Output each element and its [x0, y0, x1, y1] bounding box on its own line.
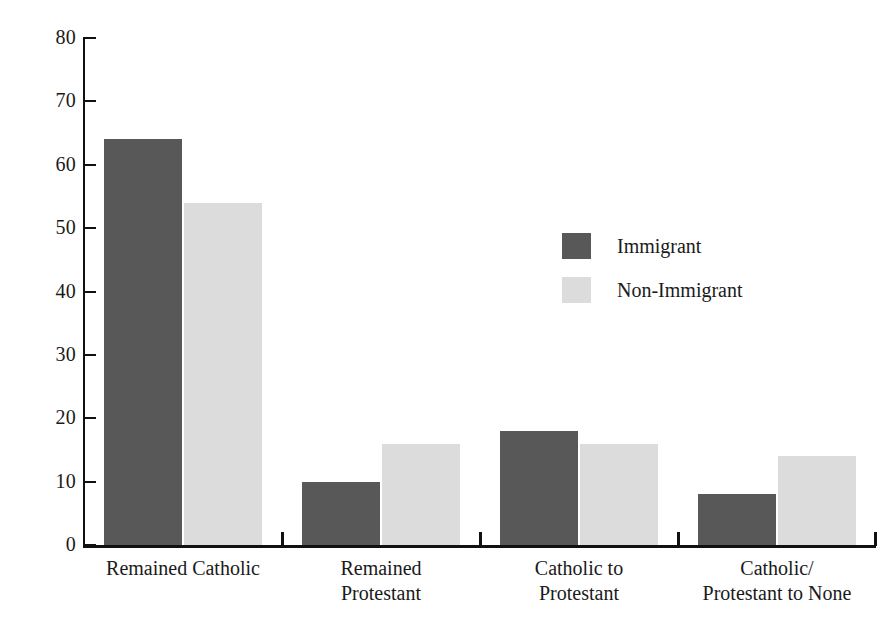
y-axis-tick-label-wrap: 50	[28, 217, 76, 237]
y-axis-tick-label-wrap: 80	[28, 27, 76, 47]
y-axis-tick-label-wrap: 10	[28, 471, 76, 491]
plot-bars	[84, 38, 876, 545]
y-axis-tick-label: 40	[32, 281, 76, 301]
bar	[698, 494, 776, 545]
legend-label-immigrant: Immigrant	[617, 236, 701, 256]
bar	[104, 139, 182, 545]
bar	[500, 431, 578, 545]
y-axis-tick-label-wrap: 30	[28, 344, 76, 364]
legend-swatch-icon-non-immigrant	[562, 277, 591, 303]
y-axis-tick-label-wrap: 70	[28, 90, 76, 110]
y-axis-tick-label: 20	[32, 407, 76, 427]
y-axis-tick-label: 80	[32, 27, 76, 47]
x-axis-category-label: Catholic/ Protestant to None	[678, 556, 876, 606]
y-axis-tick-label-wrap: 20	[28, 407, 76, 427]
bar-chart: 01020304050607080 Remained CatholicRemai…	[0, 0, 892, 632]
y-axis-tick-label-wrap: 40	[28, 281, 76, 301]
y-axis-tick-label: 0	[32, 534, 76, 554]
x-axis-category-label: Remained Catholic	[84, 556, 282, 581]
legend-label-non-immigrant: Non-Immigrant	[617, 280, 743, 300]
bar	[382, 444, 460, 545]
legend-item-non-immigrant: Non-Immigrant	[562, 268, 743, 312]
x-axis-category-label: Catholic to Protestant	[480, 556, 678, 606]
legend-item-immigrant: Immigrant	[562, 224, 743, 268]
chart-legend: Immigrant Non-Immigrant	[562, 224, 743, 312]
y-axis-tick-label-wrap: 60	[28, 154, 76, 174]
bar	[778, 456, 856, 545]
bar	[302, 482, 380, 545]
y-axis-tick-label: 60	[32, 154, 76, 174]
y-axis-tick-label: 10	[32, 471, 76, 491]
y-axis-tick-label-wrap: 0	[28, 534, 76, 554]
y-axis-tick-label: 30	[32, 344, 76, 364]
legend-swatch-icon-immigrant	[562, 233, 591, 259]
x-axis-category-label: Remained Protestant	[282, 556, 480, 606]
y-axis-tick-label: 70	[32, 90, 76, 110]
y-axis-tick-label: 50	[32, 217, 76, 237]
bar	[580, 444, 658, 545]
bar	[184, 203, 262, 545]
